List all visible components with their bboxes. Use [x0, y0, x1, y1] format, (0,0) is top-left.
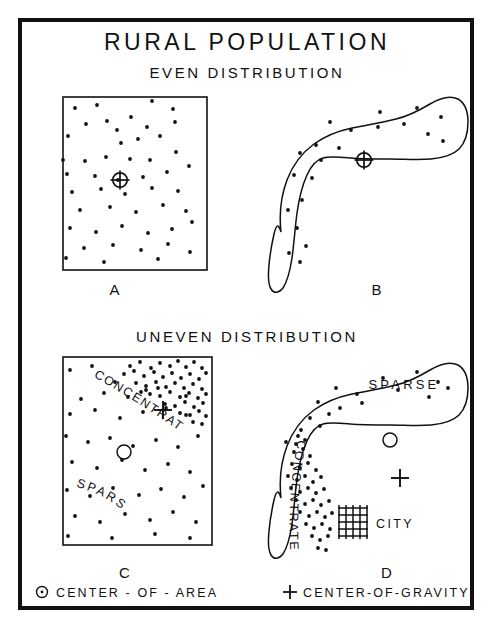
population-dot	[298, 151, 302, 155]
population-dot	[299, 428, 303, 432]
population-dot	[132, 369, 136, 373]
population-dot	[188, 372, 192, 376]
population-dot	[201, 401, 205, 405]
population-dot	[144, 388, 148, 392]
population-dot	[197, 377, 201, 381]
population-dot	[316, 546, 320, 550]
population-dot	[311, 480, 315, 484]
population-dot	[439, 115, 443, 119]
population-dot	[337, 146, 341, 150]
population-dot	[145, 125, 149, 129]
population-dot	[360, 401, 364, 405]
population-dot	[328, 527, 332, 531]
population-dot	[70, 460, 74, 464]
population-dot	[349, 128, 353, 132]
population-dot	[182, 386, 186, 390]
population-dot	[315, 510, 319, 514]
population-dot	[170, 227, 174, 231]
population-dot	[304, 244, 308, 248]
population-dot	[95, 466, 99, 470]
population-dot	[196, 434, 200, 438]
population-dot	[324, 548, 328, 552]
population-dot	[164, 385, 168, 389]
population-dot	[170, 371, 174, 375]
population-dot	[308, 416, 312, 420]
population-dot	[427, 395, 431, 399]
legend-center-of-area-label: CENTER - OF - AREA	[56, 586, 218, 600]
population-dot	[173, 404, 177, 408]
population-dot	[303, 474, 307, 478]
panel-d-city-label: CITY	[376, 517, 414, 531]
population-dot	[138, 360, 142, 364]
population-dot	[148, 158, 152, 162]
population-dot	[119, 141, 123, 145]
population-dot	[79, 397, 83, 401]
population-dot	[82, 246, 86, 250]
population-dot	[204, 414, 208, 418]
population-dot	[102, 391, 106, 395]
population-dot	[154, 380, 158, 384]
population-dot	[66, 534, 70, 538]
population-dot	[73, 106, 77, 110]
population-dot	[191, 420, 195, 424]
population-dot	[174, 150, 178, 154]
population-dot	[184, 365, 188, 369]
population-dot	[327, 412, 331, 416]
legend-center-of-gravity-label: CENTER-OF-GRAVITY	[303, 586, 470, 600]
population-dot	[111, 243, 115, 247]
population-dot	[93, 408, 97, 412]
population-dot	[287, 251, 291, 255]
population-dot	[120, 224, 124, 228]
population-dot	[108, 205, 112, 209]
population-dot	[200, 366, 204, 370]
population-dot	[184, 413, 188, 417]
population-dot	[161, 203, 165, 207]
population-dot	[204, 371, 208, 375]
population-dot	[156, 257, 160, 261]
population-dot	[137, 493, 141, 497]
population-dot	[168, 390, 172, 394]
population-dot	[61, 158, 65, 162]
population-dot	[306, 486, 310, 490]
population-dot	[166, 462, 170, 466]
population-dot	[98, 520, 102, 524]
population-dot	[146, 231, 150, 235]
population-dot	[65, 488, 69, 492]
population-dot	[123, 192, 127, 196]
page-background	[0, 0, 494, 625]
population-dot	[66, 134, 70, 138]
population-dot	[326, 534, 330, 538]
population-dot	[355, 392, 359, 396]
population-dot	[136, 137, 140, 141]
population-dot	[330, 511, 334, 515]
population-dot	[110, 536, 114, 540]
population-dot	[320, 522, 324, 526]
population-dot	[128, 157, 132, 161]
population-dot	[142, 374, 146, 378]
population-dot	[86, 440, 90, 444]
population-dot	[318, 538, 322, 542]
population-dot	[201, 484, 205, 488]
rural-population-figure: RURAL POPULATION EVEN DISTRIBUTION UNEVE…	[0, 0, 494, 625]
population-dot	[94, 230, 98, 234]
subtitle-uneven-distribution: UNEVEN DISTRIBUTION	[136, 328, 358, 345]
population-dot	[284, 440, 288, 444]
population-dot	[131, 444, 135, 448]
population-dot	[84, 122, 88, 126]
population-dot	[105, 119, 109, 123]
population-dot	[171, 107, 175, 111]
population-dot	[176, 359, 180, 363]
population-dot	[64, 434, 68, 438]
population-dot	[118, 416, 122, 420]
population-dot	[139, 248, 143, 252]
population-dot	[115, 128, 119, 132]
population-dot	[378, 110, 382, 114]
population-dot	[90, 364, 94, 368]
population-dot	[150, 99, 154, 103]
population-dot	[149, 366, 153, 370]
population-dot	[314, 143, 318, 147]
population-dot	[334, 386, 338, 390]
population-dot	[187, 391, 191, 395]
population-dot	[295, 226, 299, 230]
population-dot	[176, 189, 180, 193]
